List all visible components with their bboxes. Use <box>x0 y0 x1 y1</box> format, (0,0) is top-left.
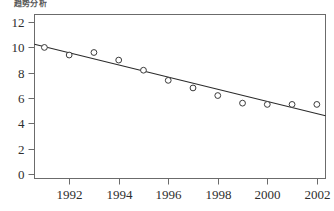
data-point <box>141 67 147 73</box>
data-point <box>42 45 48 51</box>
data-point <box>314 102 320 108</box>
data-point <box>289 102 295 108</box>
data-point <box>66 52 72 58</box>
x-axis: 199219941996199820002002 <box>57 179 331 202</box>
data-point <box>91 50 97 56</box>
chart-figure: 趋势分析 024681012 199219941996199820002002 <box>0 0 334 211</box>
trend-line <box>35 44 326 116</box>
y-axis-tick-label: 6 <box>18 91 25 106</box>
x-axis-tick-label: 2000 <box>255 187 281 202</box>
plot-border <box>35 15 326 179</box>
data-point-series <box>42 45 320 108</box>
y-axis: 024681012 <box>12 15 35 182</box>
data-point <box>165 77 171 83</box>
plot-frame <box>35 15 326 179</box>
regression-line <box>35 44 326 116</box>
data-point <box>240 100 246 106</box>
y-axis-tick-label: 12 <box>12 15 25 30</box>
data-point <box>215 93 221 99</box>
y-axis-tick-label: 10 <box>12 40 25 55</box>
scatter-plot-canvas: 024681012 199219941996199820002002 <box>0 0 334 211</box>
x-axis-tick-label: 1992 <box>57 187 83 202</box>
x-axis-tick-label: 1998 <box>206 187 232 202</box>
x-axis-tick-label: 1994 <box>107 187 134 202</box>
x-axis-tick-label: 2002 <box>305 187 331 202</box>
data-point <box>264 102 270 108</box>
y-axis-tick-label: 2 <box>18 142 25 157</box>
data-point <box>116 57 122 63</box>
y-axis-tick-label: 0 <box>18 167 25 182</box>
data-point <box>190 85 196 91</box>
y-axis-tick-label: 8 <box>18 66 25 81</box>
x-axis-tick-label: 1996 <box>156 187 183 202</box>
y-axis-tick-label: 4 <box>18 116 25 131</box>
